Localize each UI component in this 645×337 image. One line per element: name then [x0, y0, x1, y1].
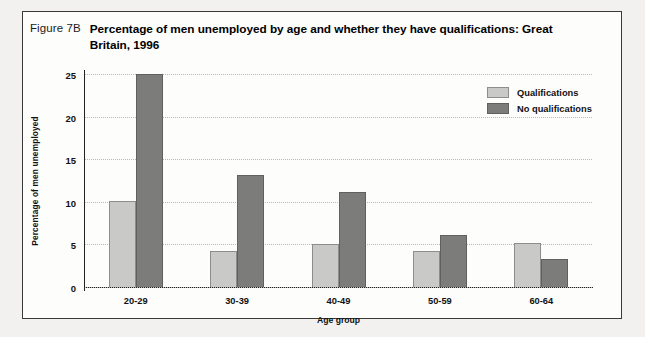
y-tick-label-5: 5: [71, 240, 76, 251]
bar-50-59-no-qualifications: [440, 235, 467, 287]
y-tick-label-15: 15: [65, 155, 76, 166]
figure-title-block: Figure 7B Percentage of men unemployed b…: [30, 22, 590, 53]
bar-20-29-qualifications: [109, 201, 136, 287]
bar-30-39-no-qualifications: [237, 175, 264, 287]
bar-group-40-49: 40-49: [312, 74, 366, 287]
y-tick-label-25: 25: [65, 70, 76, 81]
figure-container: Figure 7B Percentage of men unemployed b…: [0, 0, 645, 337]
y-tick-label-20: 20: [65, 112, 76, 123]
x-tick-label-50-59: 50-59: [428, 296, 452, 306]
bar-40-49-no-qualifications: [339, 192, 366, 287]
legend-label: Qualifications: [517, 88, 578, 98]
y-tick-label-10: 10: [65, 197, 76, 208]
legend-item-qualifications: Qualifications: [487, 86, 592, 99]
y-axis-title-text: Percentage of men unemployed: [30, 116, 40, 246]
bar-30-39-qualifications: [210, 251, 237, 287]
x-axis-title: Age group: [85, 315, 592, 325]
bar-20-29-no-qualifications: [136, 74, 163, 287]
legend-label: No qualifications: [517, 104, 592, 114]
bar-40-49-qualifications: [312, 244, 339, 287]
chart-legend: QualificationsNo qualifications: [487, 86, 592, 118]
y-tick-label-0: 0: [71, 283, 76, 294]
x-tick-label-20-29: 20-29: [124, 296, 148, 306]
gridline-0: 0: [85, 287, 592, 288]
bar-60-64-no-qualifications: [541, 259, 568, 287]
legend-swatch-icon: [487, 87, 509, 98]
x-tick-label-60-64: 60-64: [529, 296, 553, 306]
bar-60-64-qualifications: [514, 243, 541, 287]
legend-swatch-icon: [487, 103, 509, 114]
x-tick-label-30-39: 30-39: [225, 296, 249, 306]
figure-title: Percentage of men unemployed by age and …: [90, 22, 590, 53]
y-axis-title: Percentage of men unemployed: [28, 74, 42, 287]
x-tick-label-40-49: 40-49: [327, 296, 351, 306]
bar-group-20-29: 20-29: [109, 74, 163, 287]
bar-group-30-39: 30-39: [210, 74, 264, 287]
legend-item-no-qualifications: No qualifications: [487, 102, 592, 115]
figure-number-label: Figure 7B: [30, 22, 81, 34]
bar-group-50-59: 50-59: [413, 74, 467, 287]
bar-50-59-qualifications: [413, 251, 440, 287]
